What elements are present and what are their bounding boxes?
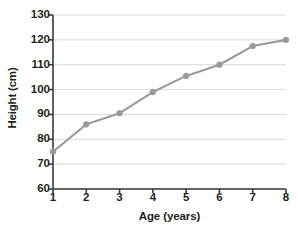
line-chart: Height (cm) 60708090100110120130 1234567… bbox=[0, 0, 298, 238]
x-tick-label: 7 bbox=[241, 192, 265, 204]
y-tick-label: 110 bbox=[22, 59, 50, 71]
x-tick-label: 4 bbox=[141, 192, 165, 204]
data-point-marker bbox=[283, 37, 289, 43]
chart-canvas bbox=[53, 15, 286, 189]
plot-area bbox=[53, 15, 286, 189]
data-point-marker bbox=[183, 73, 189, 79]
data-line-series-height bbox=[53, 40, 286, 152]
y-tick-label: 120 bbox=[22, 34, 50, 46]
data-point-marker bbox=[250, 43, 256, 49]
data-point-markers bbox=[50, 37, 289, 155]
y-tick-label: 70 bbox=[22, 158, 50, 170]
x-axis-tick-labels: 12345678 bbox=[53, 192, 286, 210]
y-tick-label: 90 bbox=[22, 109, 50, 121]
y-axis-tick-labels: 60708090100110120130 bbox=[22, 0, 50, 196]
x-tick-label: 8 bbox=[274, 192, 298, 204]
x-tick-label: 1 bbox=[41, 192, 65, 204]
x-tick-label: 2 bbox=[74, 192, 98, 204]
x-tick-label: 6 bbox=[207, 192, 231, 204]
data-point-marker bbox=[117, 110, 123, 116]
data-point-marker bbox=[217, 62, 223, 68]
y-axis-title-label: Height (cm) bbox=[6, 67, 18, 128]
gridlines bbox=[53, 15, 286, 189]
data-point-marker bbox=[83, 121, 89, 127]
y-tick-label: 130 bbox=[22, 9, 50, 21]
x-axis-title: Age (years) bbox=[53, 210, 286, 222]
data-point-marker bbox=[150, 89, 156, 95]
data-point-marker bbox=[50, 149, 56, 155]
x-tick-label: 3 bbox=[108, 192, 132, 204]
y-tick-label: 80 bbox=[22, 134, 50, 146]
x-tick-label: 5 bbox=[174, 192, 198, 204]
y-axis-title: Height (cm) bbox=[0, 0, 24, 196]
y-tick-label: 100 bbox=[22, 84, 50, 96]
